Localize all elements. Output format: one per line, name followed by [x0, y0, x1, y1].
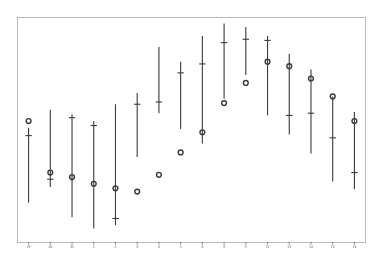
x-tick-label: 15 — [331, 245, 335, 249]
x-tick-label: 29 — [27, 245, 31, 249]
x-tick-label: 1 — [93, 245, 95, 249]
plot-area-frame — [17, 17, 366, 243]
x-tick-label: 16 — [353, 245, 357, 249]
x-tick-label: 2 — [115, 245, 117, 249]
x-tick-label: 8 — [223, 245, 225, 249]
x-tick-label: 4 — [158, 245, 160, 249]
x-tick-label: 6 — [201, 245, 203, 249]
x-tick-label: 5 — [180, 245, 182, 249]
x-tick-label: 3 — [136, 245, 138, 249]
x-tick-label: 13 — [287, 245, 291, 249]
x-tick-label: 14 — [309, 245, 313, 249]
x-tick-label: 31 — [70, 245, 74, 249]
x-tick-label: 12 — [266, 245, 270, 249]
x-tick-label: 9 — [245, 245, 247, 249]
x-tick-label: 30 — [48, 245, 52, 249]
chart-figure: 293031123456891213141516 — [0, 0, 380, 263]
